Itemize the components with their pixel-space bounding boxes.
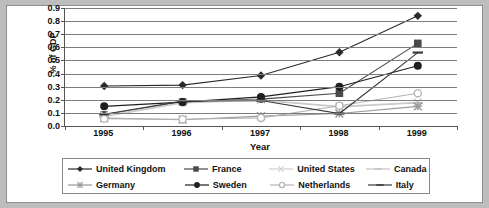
marker-opencircle	[257, 114, 264, 121]
gridline	[65, 34, 457, 35]
marker-dash	[374, 168, 381, 170]
y-tick-mark	[61, 100, 65, 101]
data-series-layer	[65, 8, 457, 126]
legend-label: Sweden	[213, 179, 247, 191]
legend-swatch-bar-icon	[367, 179, 393, 191]
marker-square	[414, 40, 422, 48]
legend-label: France	[212, 163, 242, 175]
y-tick-mark	[61, 74, 65, 75]
marker-opencircle	[414, 90, 421, 97]
gridline	[65, 60, 457, 61]
gridline	[65, 74, 457, 75]
legend-swatch-square-icon	[183, 163, 209, 175]
gridline	[65, 21, 457, 22]
legend-label: Canada	[394, 163, 427, 175]
gridline	[65, 113, 457, 114]
legend-swatch-circle-icon	[184, 179, 210, 191]
legend-item-italy[interactable]: Italy	[367, 177, 425, 193]
marker-opencircle	[101, 115, 108, 122]
legend-label: United Kingdom	[96, 163, 166, 175]
series-united-kingdom	[100, 12, 422, 91]
x-axis-title: Year	[64, 141, 456, 152]
y-axis-tick-labels: 0.00.10.20.30.40.50.60.70.80.9	[34, 8, 60, 126]
legend-row: GermanySwedenNetherlandsItaly	[67, 177, 425, 193]
axes-box	[64, 8, 457, 127]
legend-label: Italy	[396, 179, 414, 191]
x-tick-label: 1997	[250, 128, 270, 138]
y-tick-mark	[61, 8, 65, 9]
legend-swatch-cross-icon	[268, 163, 294, 175]
marker-diamond	[335, 48, 343, 56]
marker-star	[414, 102, 422, 110]
y-tick-mark	[61, 47, 65, 48]
y-tick-label: 0.8	[47, 16, 60, 26]
gridline	[65, 8, 457, 9]
y-tick-mark	[61, 113, 65, 114]
y-tick-label: 0.6	[47, 42, 60, 52]
y-tick-label: 0.0	[47, 121, 60, 131]
legend-swatch-dash-icon	[365, 163, 391, 175]
plot-area: % of GDP 0.00.10.20.30.40.50.60.70.80.9 …	[20, 8, 460, 158]
gridline	[65, 87, 457, 88]
y-tick-mark	[61, 34, 65, 35]
x-tick-label: 1999	[407, 128, 427, 138]
legend-item-united-kingdom[interactable]: United Kingdom	[67, 161, 183, 177]
x-tick-label: 1996	[172, 128, 192, 138]
x-tick-label: 1995	[93, 128, 113, 138]
y-tick-label: 0.4	[47, 69, 60, 79]
y-tick-label: 0.9	[47, 3, 60, 13]
legend-label: Netherlands	[298, 179, 350, 191]
chart-screenshot: % of GDP 0.00.10.20.30.40.50.60.70.80.9 …	[0, 0, 489, 208]
gridline	[65, 47, 457, 48]
legend-item-germany[interactable]: Germany	[67, 177, 184, 193]
x-tick-label: 1998	[328, 128, 348, 138]
marker-diamond	[77, 166, 83, 172]
y-tick-label: 0.5	[47, 55, 60, 65]
legend-item-united-states[interactable]: United States	[268, 161, 365, 177]
marker-bar	[376, 184, 383, 186]
y-tick-label: 0.7	[47, 29, 60, 39]
chart-legend: United KingdomFranceUnited StatesCanada …	[62, 158, 430, 194]
y-tick-label: 0.1	[47, 108, 60, 118]
marker-opencircle	[336, 102, 343, 109]
marker-circle	[100, 102, 108, 110]
marker-bar	[413, 51, 423, 53]
legend-item-france[interactable]: France	[183, 161, 268, 177]
x-axis-tick-labels: 19951996199719981999	[64, 128, 456, 142]
y-tick-mark	[61, 87, 65, 88]
marker-diamond	[414, 12, 422, 20]
legend-row: United KingdomFranceUnited StatesCanada	[67, 161, 425, 177]
marker-opencircle	[280, 182, 285, 187]
gridline	[65, 100, 457, 101]
marker-diamond	[178, 81, 186, 89]
legend-item-netherlands[interactable]: Netherlands	[269, 177, 366, 193]
legend-swatch-opencircle-icon	[269, 179, 295, 191]
marker-square	[193, 166, 198, 171]
legend-swatch-diamond-icon	[67, 163, 93, 175]
y-tick-mark	[61, 21, 65, 22]
y-tick-label: 0.3	[47, 82, 60, 92]
x-tick-mark	[457, 126, 458, 130]
legend-label: United States	[297, 163, 355, 175]
legend-swatch-star-icon	[67, 179, 93, 191]
y-tick-label: 0.2	[47, 95, 60, 105]
marker-circle	[414, 62, 422, 70]
legend-label: Germany	[96, 179, 135, 191]
marker-star	[77, 182, 83, 188]
marker-circle	[194, 182, 200, 188]
legend-item-sweden[interactable]: Sweden	[184, 177, 270, 193]
legend-item-canada[interactable]: Canada	[365, 161, 425, 177]
y-tick-mark	[61, 60, 65, 61]
marker-opencircle	[179, 116, 186, 123]
